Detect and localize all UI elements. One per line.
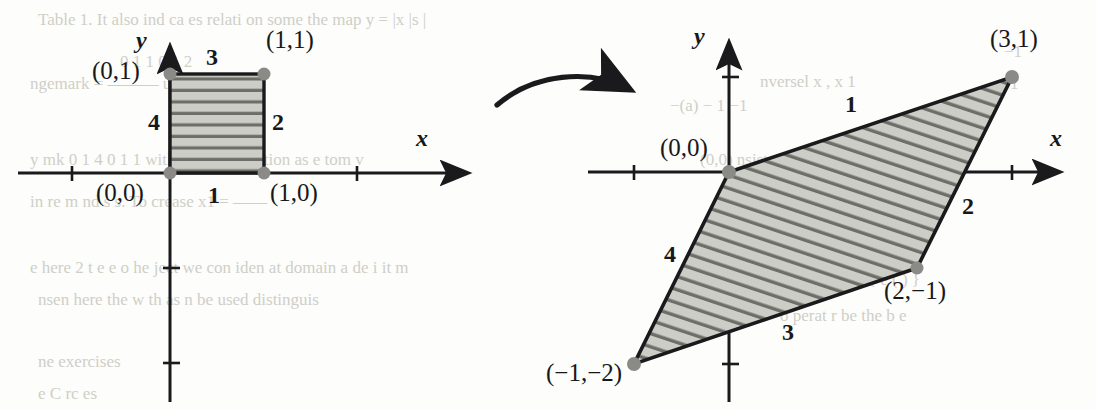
vertex-dot-0-0 <box>164 167 177 180</box>
right-edge-label-2: 2 <box>962 194 974 218</box>
unit-square-panel <box>18 46 468 402</box>
left-edge-label-4: 4 <box>148 110 160 134</box>
vertex-dot-1-1 <box>258 68 271 81</box>
vertex-dot-image-3-1 <box>1005 70 1019 84</box>
vertex-dot-image-2-neg1 <box>911 262 924 275</box>
right-vertex-label-2-neg1: (2,−1) <box>884 278 946 303</box>
right-edge-label-3: 3 <box>782 320 794 344</box>
unit-square-fill <box>170 74 264 173</box>
vertex-dot-0-1 <box>164 68 177 81</box>
left-edge-label-2: 2 <box>272 110 284 134</box>
left-y-axis-label: y <box>136 28 147 52</box>
parallelogram-panel <box>588 42 1060 402</box>
figure-canvas <box>0 0 1096 409</box>
left-edge-label-1: 1 <box>208 183 220 207</box>
vertex-dot-image-0-0 <box>722 165 736 179</box>
right-edge-label-4: 4 <box>664 242 676 266</box>
right-vertex-label-3-1: (3,1) <box>990 26 1038 51</box>
right-y-axis-label: y <box>694 24 705 48</box>
transformation-arrow <box>497 77 627 105</box>
left-edge-label-3: 3 <box>206 45 218 69</box>
right-edge-label-1: 1 <box>845 92 857 116</box>
left-vertex-label-1-0: (1,0) <box>270 180 318 205</box>
transformation-figure: Table 1. It also ind ca es relati on som… <box>0 0 1096 409</box>
parallelogram-fill <box>634 77 1012 364</box>
right-vertex-label-0-0: (0,0) <box>660 135 708 160</box>
left-vertex-label-0-0: (0,0) <box>96 180 144 205</box>
right-x-axis-label: x <box>1050 126 1062 150</box>
vertex-dot-1-0 <box>258 167 271 180</box>
vertex-dot-image-neg1-neg2 <box>627 357 641 371</box>
left-vertex-label-1-1: (1,1) <box>266 27 314 52</box>
transformation-arrow-path <box>497 77 627 105</box>
left-vertex-label-0-1: (0,1) <box>92 58 140 83</box>
image-parallelogram <box>634 77 1012 364</box>
right-vertex-label-neg1-neg2: (−1,−2) <box>546 360 622 385</box>
left-x-axis-label: x <box>416 126 428 150</box>
unit-square <box>170 74 264 173</box>
